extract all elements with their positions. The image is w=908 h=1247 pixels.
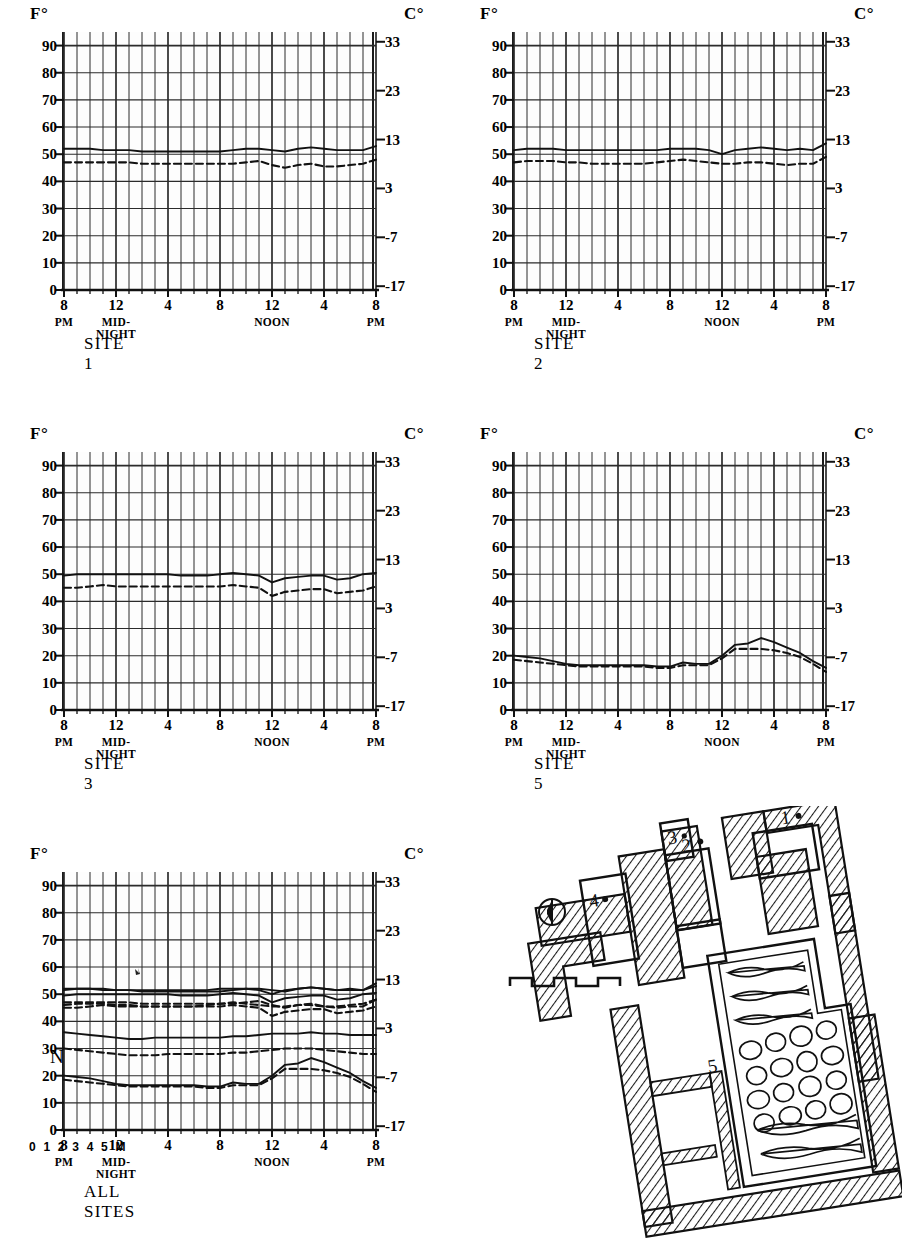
y-axis-tick-f: 60 xyxy=(492,540,507,555)
y-axis-tick-c: 33 xyxy=(385,34,400,49)
chart-title-site-3: SITE 3 xyxy=(84,754,125,794)
y-axis-tick-f: 30 xyxy=(492,201,507,216)
chart-title-site-1: SITE 1 xyxy=(84,334,125,374)
y-axis-tick-c: 13 xyxy=(385,132,400,147)
y-axis-tick-c: 23 xyxy=(835,83,850,98)
x-axis-tick: 4 xyxy=(164,298,172,314)
x-axis-tick: 4 xyxy=(164,1138,172,1154)
site-plan: 1 2 3 4 5 xyxy=(496,806,902,1244)
y-axis-tick-c: 33 xyxy=(835,34,850,49)
x-axis-tick: 8PM xyxy=(505,718,523,748)
x-axis-tick: 12NOON xyxy=(254,1138,290,1168)
axis-unit-right: C° xyxy=(404,424,424,444)
x-axis-tick: 4 xyxy=(614,718,622,734)
y-axis-tick-f: 30 xyxy=(42,201,57,216)
y-axis-tick-f: 50 xyxy=(492,567,507,582)
y-axis-tick-f: 10 xyxy=(42,675,57,690)
y-axis-tick-f: 0 xyxy=(500,703,508,718)
y-axis-tick-f: 20 xyxy=(42,648,57,663)
y-axis-tick-f: 20 xyxy=(42,228,57,243)
y-axis-tick-f: 10 xyxy=(42,1095,57,1110)
y-axis-tick-c: 33 xyxy=(835,454,850,469)
plot-area: 0102030405060708090-17-731323338PM12MID-… xyxy=(512,32,824,290)
x-axis-tick: 8PM xyxy=(55,718,73,748)
x-axis-tick: 4 xyxy=(770,718,778,734)
y-axis-tick-f: 40 xyxy=(492,594,507,609)
y-axis-tick-f: 90 xyxy=(42,878,57,893)
stone-features xyxy=(727,954,862,1168)
x-axis-tick: 4 xyxy=(164,718,172,734)
axis-unit-left: F° xyxy=(30,844,48,864)
y-axis-tick-c: 3 xyxy=(385,601,393,616)
y-axis-tick-f: 90 xyxy=(42,38,57,53)
y-axis-tick-f: 40 xyxy=(42,1014,57,1029)
y-axis-tick-c: 13 xyxy=(385,552,400,567)
y-axis-tick-f: 80 xyxy=(42,65,57,80)
y-axis-tick-f: 10 xyxy=(42,255,57,270)
x-axis-tick: 4 xyxy=(320,718,328,734)
plot-area: 0102030405060708090-17-731323338PM12MID-… xyxy=(62,452,374,710)
y-axis-tick-c: 3 xyxy=(835,181,843,196)
y-axis-tick-c: -17 xyxy=(835,279,855,294)
x-axis-tick: 8 xyxy=(216,718,224,734)
y-axis-tick-f: 60 xyxy=(42,540,57,555)
x-axis-tick: 8PM xyxy=(817,298,835,328)
x-axis-tick: 8PM xyxy=(55,298,73,328)
x-axis-tick: 8 xyxy=(666,718,674,734)
x-axis-tick: 12NOON xyxy=(704,718,740,748)
y-axis-tick-c: -7 xyxy=(385,1070,398,1085)
y-axis-tick-f: 70 xyxy=(492,92,507,107)
y-axis-tick-f: 80 xyxy=(492,485,507,500)
chart-title-site-2: SITE 2 xyxy=(534,334,575,374)
y-axis-tick-f: 60 xyxy=(492,120,507,135)
plot-area: 0102030405060708090-17-731323338PM12MID-… xyxy=(512,452,824,710)
y-axis-tick-f: 80 xyxy=(492,65,507,80)
y-axis-tick-c: 23 xyxy=(835,503,850,518)
x-axis-tick: 4 xyxy=(320,298,328,314)
axis-unit-left: F° xyxy=(30,424,48,444)
axis-unit-left: F° xyxy=(480,4,498,24)
y-axis-tick-c: 3 xyxy=(385,1021,393,1036)
y-axis-tick-f: 40 xyxy=(42,594,57,609)
x-axis-tick: 8PM xyxy=(367,298,385,328)
ink-artifact xyxy=(134,966,143,977)
y-axis-tick-f: 90 xyxy=(492,38,507,53)
y-axis-tick-f: 20 xyxy=(492,228,507,243)
axis-unit-right: C° xyxy=(854,4,874,24)
y-axis-tick-f: 60 xyxy=(42,120,57,135)
y-axis-tick-f: 80 xyxy=(42,905,57,920)
y-axis-tick-c: -17 xyxy=(385,1119,405,1134)
y-axis-tick-f: 0 xyxy=(500,283,508,298)
x-axis-tick: 12NOON xyxy=(254,298,290,328)
plot-area: 0102030405060708090-17-731323338PM12MID-… xyxy=(62,32,374,290)
x-axis-tick: 4 xyxy=(614,298,622,314)
y-axis-tick-c: -7 xyxy=(835,650,848,665)
y-axis-tick-c: 33 xyxy=(385,874,400,889)
y-axis-tick-c: -7 xyxy=(385,650,398,665)
axis-unit-right: C° xyxy=(404,844,424,864)
y-axis-tick-f: 10 xyxy=(492,675,507,690)
y-axis-tick-c: 23 xyxy=(385,83,400,98)
y-axis-tick-c: -17 xyxy=(385,699,405,714)
y-axis-tick-c: -7 xyxy=(385,230,398,245)
y-axis-tick-c: 23 xyxy=(385,923,400,938)
x-axis-tick: 8PM xyxy=(817,718,835,748)
y-axis-tick-c: -17 xyxy=(385,279,405,294)
y-axis-tick-f: 50 xyxy=(492,147,507,162)
y-axis-tick-c: 33 xyxy=(385,454,400,469)
y-axis-tick-c: 13 xyxy=(385,972,400,987)
y-axis-tick-f: 10 xyxy=(492,255,507,270)
y-axis-tick-f: 50 xyxy=(42,987,57,1002)
y-axis-tick-c: -17 xyxy=(835,699,855,714)
plot-area: 0102030405060708090-17-731323338PM12MID-… xyxy=(62,872,374,1130)
x-axis-tick: 8PM xyxy=(367,718,385,748)
chart-title-site-5: SITE 5 xyxy=(534,754,575,794)
x-axis-tick: 8 xyxy=(216,1138,224,1154)
y-axis-tick-f: 90 xyxy=(42,458,57,473)
room-label-5: 5 xyxy=(706,1055,719,1077)
scale-bar-label: 0 1 2 3 4 5 M xyxy=(29,1140,128,1154)
y-axis-tick-f: 0 xyxy=(50,1123,58,1138)
y-axis-tick-f: 90 xyxy=(492,458,507,473)
y-axis-tick-f: 30 xyxy=(42,621,57,636)
y-axis-tick-f: 0 xyxy=(50,703,58,718)
